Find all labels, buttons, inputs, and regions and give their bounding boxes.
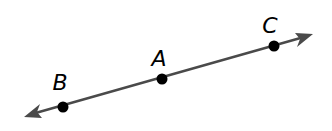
point-b-label: B [52, 70, 67, 95]
point-b-dot [58, 102, 69, 113]
point-a-dot [157, 74, 168, 85]
point-c: C [262, 13, 279, 52]
point-a-label: A [149, 46, 166, 71]
point-c-dot [269, 41, 280, 52]
line-bac [32, 37, 304, 114]
line-diagram: B A C [0, 0, 332, 131]
point-a: A [149, 46, 167, 85]
point-c-label: C [262, 13, 278, 38]
point-b: B [52, 70, 68, 113]
